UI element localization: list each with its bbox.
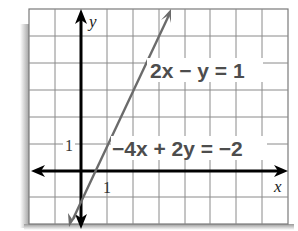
- x-tick-label: 1: [103, 179, 111, 196]
- x-axis-label: x: [273, 177, 282, 196]
- shadow-bottom: [24, 224, 294, 230]
- eq1-label: 2x − y = 1: [150, 59, 245, 82]
- eq2-label: −4x + 2y = −2: [112, 137, 243, 160]
- y-axis-label: y: [87, 12, 97, 31]
- y-tick-label: 1: [65, 137, 73, 154]
- coordinate-graph: 2x − y = 1 −4x + 2y = −2 y x 1 1: [0, 0, 298, 231]
